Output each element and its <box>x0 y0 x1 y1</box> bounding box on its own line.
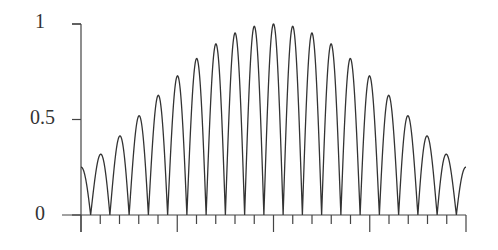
plot-area <box>0 0 498 250</box>
chart: 1 0.5 0 <box>0 0 498 250</box>
signal-line <box>81 24 466 215</box>
